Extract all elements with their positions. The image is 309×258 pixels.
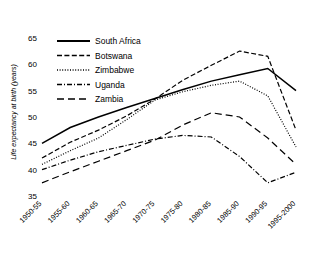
y-axis-tick-labels: 35404550556065 (28, 34, 37, 201)
legend-label-zambia: Zambia (95, 94, 124, 104)
y-tick-label-60: 60 (28, 60, 37, 69)
x-axis-tick-labels: 1950-551955-601960-651965-701970-751975-… (18, 199, 298, 231)
legend-label-botswana: Botswana (95, 51, 133, 61)
y-tick-label-45: 45 (28, 139, 37, 148)
series-line-uganda (42, 135, 296, 182)
y-axis-title: Life expectancy at birth (years) (10, 64, 18, 160)
legend-label-south-africa: South Africa (95, 36, 141, 46)
line-chart: 35404550556065 1950-551955-601960-651965… (0, 0, 309, 258)
chart-series-lines (42, 51, 296, 183)
x-tick-label-1950-55: 1950-55 (18, 199, 44, 225)
x-tick-label-1980-85: 1980-85 (187, 199, 213, 225)
x-tick-label-1985-90: 1985-90 (215, 199, 241, 225)
x-tick-label-1965-70: 1965-70 (102, 199, 128, 225)
x-tick-label-1990-95: 1990-95 (243, 199, 269, 225)
y-tick-label-40: 40 (28, 166, 37, 175)
chart-legend: South AfricaBotswanaZimbabweUgandaZambia (57, 36, 141, 104)
legend-label-uganda: Uganda (95, 80, 125, 90)
x-tick-label-1970-75: 1970-75 (130, 199, 156, 225)
x-tick-label-1975-80: 1975-80 (159, 199, 185, 225)
y-tick-label-65: 65 (28, 34, 37, 43)
legend-label-zimbabwe: Zimbabwe (95, 65, 134, 75)
x-tick-label-1995-2000: 1995-2000 (266, 199, 298, 231)
y-tick-label-50: 50 (28, 113, 37, 122)
y-tick-label-55: 55 (28, 87, 37, 96)
figure-container: 35404550556065 1950-551955-601960-651965… (0, 0, 309, 258)
series-line-botswana (42, 51, 296, 158)
x-tick-label-1960-65: 1960-65 (74, 199, 100, 225)
x-tick-label-1955-60: 1955-60 (46, 199, 72, 225)
